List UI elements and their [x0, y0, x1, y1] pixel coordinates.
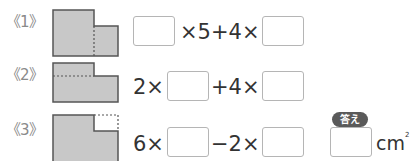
expression-text-3b: −2× — [211, 134, 260, 155]
final-answer-input[interactable] — [330, 127, 372, 157]
problem-3-figure — [52, 114, 120, 161]
l-shape — [53, 63, 118, 102]
expression-text-3a: 6× — [133, 134, 164, 155]
expression-text-2b: +4× — [211, 77, 260, 98]
problem-1-figure — [52, 9, 120, 58]
answer-blank-2a[interactable] — [167, 71, 209, 101]
dotted-missing-corner — [94, 115, 118, 131]
notched-rectangle — [53, 115, 118, 161]
problem-2-label: 《2》 — [6, 63, 43, 84]
problem-2-figure — [52, 62, 120, 103]
problem-3-label: 《3》 — [6, 118, 43, 139]
answer-blank-1b[interactable] — [262, 16, 304, 46]
unit-exponent: 2 — [405, 131, 409, 139]
expression-text-2a: 2× — [133, 77, 164, 98]
answer-blank-3b[interactable] — [262, 127, 304, 157]
answer-blank-2b[interactable] — [262, 71, 304, 101]
l-shape — [53, 10, 118, 56]
expression-text-1: ×5+4× — [180, 22, 260, 43]
answer-blank-1a[interactable] — [133, 16, 175, 46]
problem-1-label: 《1》 — [6, 10, 43, 31]
answer-blank-3a[interactable] — [167, 127, 209, 157]
unit-text: cm — [376, 132, 405, 154]
answer-badge: 答え — [332, 112, 368, 127]
unit-label: cm2 — [376, 134, 409, 153]
